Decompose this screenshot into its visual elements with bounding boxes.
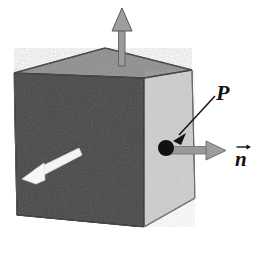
cube-diagram-svg (0, 0, 262, 254)
normal-arrow-head (206, 141, 226, 160)
shaded-cube (14, 48, 195, 227)
up-arrow-head (112, 8, 132, 31)
point-label-P: P (216, 82, 229, 104)
figure-canvas: P n (0, 0, 262, 254)
up-arrow-shaft (119, 26, 126, 66)
point-P-dot (158, 140, 174, 156)
normal-vector-label: n (235, 140, 247, 170)
normal-label-glyph: n (235, 149, 247, 170)
